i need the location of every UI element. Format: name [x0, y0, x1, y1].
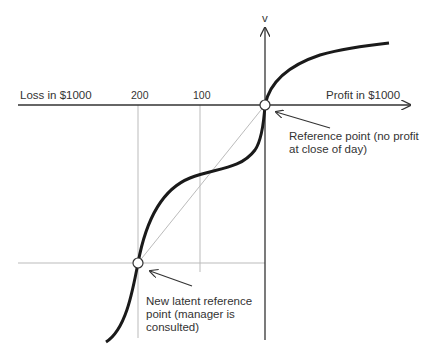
axes [18, 28, 410, 340]
profit-axis-label: Profit in $1000 [326, 89, 400, 102]
tick-100: 100 [193, 89, 211, 101]
loss-axis-label: Loss in $1000 [20, 89, 92, 102]
reference-point-marker [260, 100, 270, 110]
latent-point-annotation: New latent reference point (manager is c… [146, 295, 252, 334]
tick-200: 200 [131, 89, 149, 101]
latent-reference-point-marker [133, 258, 143, 268]
reference-point-annotation: Reference point (no profit at close of d… [289, 130, 419, 156]
y-axis-label: v [262, 12, 268, 25]
